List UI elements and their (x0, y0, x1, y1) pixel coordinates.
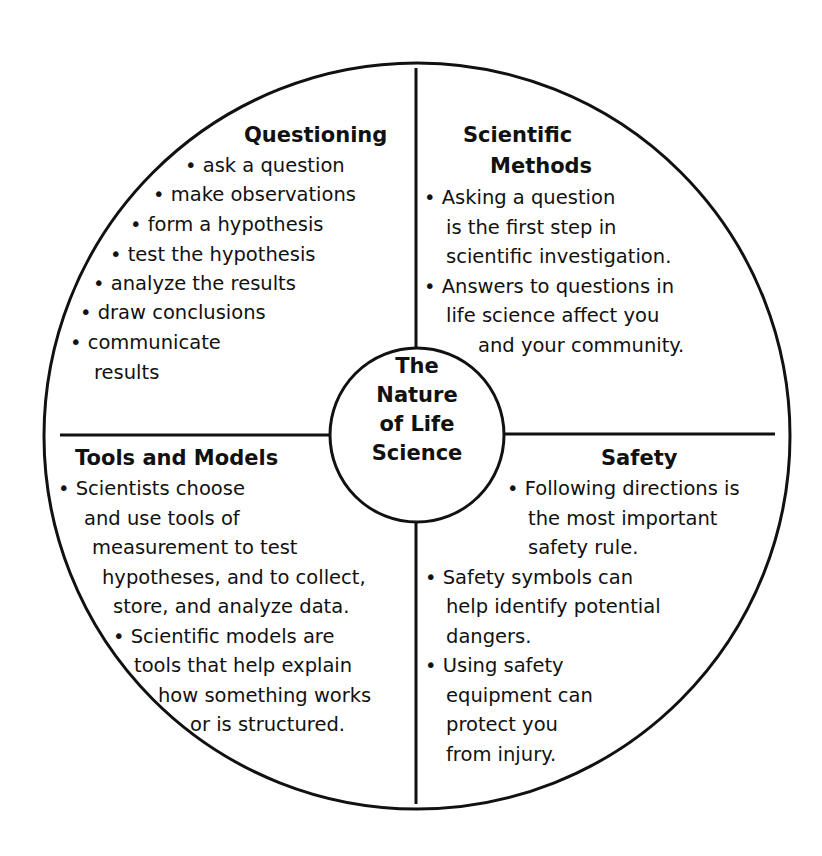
questioning-item: • communicate (70, 331, 221, 354)
tools-and-models-item: • Scientific models are (113, 625, 334, 648)
safety-item: equipment can (446, 684, 593, 707)
tools-and-models-heading: Tools and Models (75, 445, 278, 472)
questioning-item: • test the hypothesis (110, 243, 316, 266)
center-title: The Nature of Life Science (330, 352, 504, 468)
center-line: of Life (330, 410, 504, 439)
center-line: Science (330, 439, 504, 468)
tools-and-models-item: and use tools of (84, 507, 240, 530)
safety-item: • Using safety (425, 654, 564, 677)
safety-item: • Safety symbols can (425, 566, 633, 589)
questioning-item: • ask a question (185, 154, 345, 177)
tools-and-models-item: how something works (158, 684, 371, 707)
safety-heading: Safety (601, 445, 677, 472)
center-line: Nature (330, 381, 504, 410)
questioning-heading: Questioning (244, 122, 387, 149)
safety-item: from injury. (446, 743, 556, 766)
safety-item: help identify potential (446, 595, 661, 618)
scientific-methods-heading-1: Scientific (463, 122, 572, 149)
safety-item: • Following directions is (507, 477, 740, 500)
questioning-item: • form a hypothesis (130, 213, 323, 236)
tools-and-models-item: measurement to test (92, 536, 297, 559)
questioning-item: • make observations (153, 183, 356, 206)
tools-and-models-item: tools that help explain (134, 654, 352, 677)
scientific-methods-heading-2: Methods (490, 153, 592, 180)
safety-item: protect you (446, 713, 558, 736)
scientific-methods-item: • Asking a question (424, 186, 615, 209)
scientific-methods-item: scientific investigation. (446, 245, 671, 268)
scientific-methods-item: and your community. (478, 334, 684, 357)
safety-item: safety rule. (528, 536, 638, 559)
questioning-item: • draw conclusions (80, 301, 266, 324)
scientific-methods-item: • Answers to questions in (424, 275, 674, 298)
tools-and-models-item: • Scientists choose (58, 477, 245, 500)
questioning-item: • analyze the results (93, 272, 296, 295)
scientific-methods-item: is the first step in (446, 216, 616, 239)
safety-item: dangers. (446, 625, 531, 648)
tools-and-models-item: hypotheses, and to collect, (102, 566, 366, 589)
questioning-item: results (94, 361, 159, 384)
tools-and-models-item: or is structured. (190, 713, 345, 736)
safety-item: the most important (528, 507, 717, 530)
tools-and-models-item: store, and analyze data. (113, 595, 349, 618)
scientific-methods-item: life science affect you (446, 304, 659, 327)
